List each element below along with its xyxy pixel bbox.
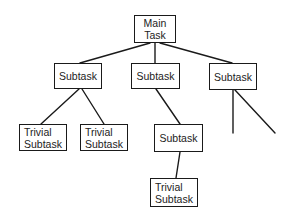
node-trivial-subtask-left-1: Trivial Subtask (19, 124, 67, 151)
node-trivial-subtask-mid: Trivial Subtask (150, 178, 198, 207)
node-label: Trivial Subtask (85, 126, 123, 150)
edge-subtask-mid-to-subtask-child (156, 89, 180, 124)
node-trivial-subtask-left-2: Trivial Subtask (80, 124, 128, 151)
edge-main-to-subtask-right (160, 43, 232, 63)
task-decomposition-diagram: Main Task Subtask Subtask Subtask Trivia… (0, 0, 299, 219)
node-label: Subtask (59, 70, 97, 82)
node-subtask-mid-child: Subtask (154, 124, 203, 152)
edge-subtask-child-to-trivial (176, 152, 180, 178)
edge-main-to-subtask-left (80, 43, 150, 63)
edge-subtask-left-to-trivial-1 (41, 89, 79, 124)
node-label: Subtask (160, 132, 198, 144)
node-label: Subtask (214, 71, 252, 83)
node-subtask-mid: Subtask (131, 63, 180, 89)
edge-subtask-left-to-trivial-2 (82, 89, 104, 124)
node-label: Trivial Subtask (24, 126, 62, 150)
node-label: Subtask (137, 70, 175, 82)
node-label: Main Task (144, 17, 167, 41)
node-label: Trivial Subtask (155, 181, 193, 205)
node-subtask-left: Subtask (54, 63, 102, 89)
node-subtask-right: Subtask (209, 63, 257, 90)
node-main-task: Main Task (134, 15, 176, 43)
edge-subtask-right-open-diagonal (235, 90, 275, 133)
